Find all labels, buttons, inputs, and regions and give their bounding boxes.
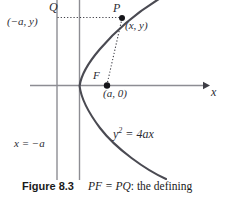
label-p-point: P <box>113 2 120 14</box>
parabola-figure: Q (−a, y) P (x, y) F (a, 0) x x = −a y2 … <box>0 0 226 197</box>
label-focus-point: F <box>93 70 100 81</box>
caption-text: PF = PQ: the defining <box>88 180 192 192</box>
equation-exponent: 2 <box>118 126 122 135</box>
label-directrix-equation: x = −a <box>14 138 45 149</box>
label-x-axis: x <box>211 86 216 98</box>
x-axis-arrowhead <box>203 82 210 89</box>
label-q-point: Q <box>49 1 58 13</box>
dotted-p-to-focus <box>107 19 122 85</box>
label-q-coordinates: (−a, y) <box>7 16 38 27</box>
label-p-coordinates: (x, y) <box>125 20 148 31</box>
label-curve-equation: y2 = 4ax <box>113 128 154 140</box>
figure-caption: Figure 8.3 PF = PQ: the defining <box>0 180 226 197</box>
caption-trailing-text: : the defining <box>131 180 192 192</box>
caption-figure-number: Figure 8.3 <box>22 180 74 192</box>
label-focus-coordinates: (a, 0) <box>103 88 127 99</box>
caption-math-expression: PF = PQ <box>88 180 131 192</box>
equation-rhs: = 4ax <box>125 127 153 141</box>
